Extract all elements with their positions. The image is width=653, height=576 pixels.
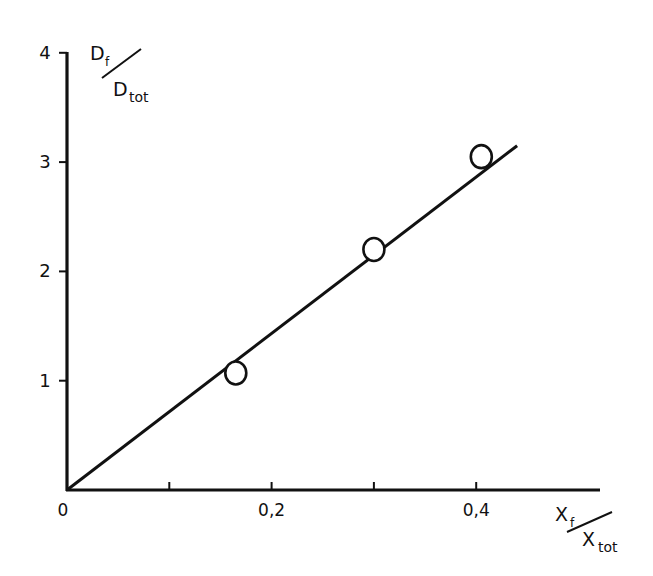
y-label-denominator: D bbox=[113, 78, 128, 100]
y-axis-label: DfDtot bbox=[90, 42, 149, 105]
x-tick-label: 0,4 bbox=[463, 500, 490, 520]
x-tick-label: 0 bbox=[58, 500, 69, 520]
y-label-numerator-sub: f bbox=[105, 55, 110, 69]
x-label-denominator: X bbox=[582, 528, 595, 550]
axes bbox=[66, 52, 600, 491]
x-label-denominator-sub: tot bbox=[598, 539, 618, 555]
data-point-circle bbox=[471, 145, 492, 168]
x-tick-label: 0,2 bbox=[258, 500, 285, 520]
y-label-numerator: D bbox=[90, 42, 105, 64]
x-label-numerator: X bbox=[555, 503, 568, 525]
y-tick-label: 3 bbox=[39, 151, 50, 172]
fit-line bbox=[67, 146, 517, 490]
tick-labels: 00,20,41234 bbox=[39, 42, 489, 520]
line-chart: 00,20,41234 DfDtot XfXtot bbox=[0, 0, 653, 576]
data-point-circle bbox=[225, 362, 246, 385]
y-tick-label: 1 bbox=[39, 370, 50, 391]
y-tick-label: 2 bbox=[39, 260, 50, 281]
data-points bbox=[225, 145, 492, 384]
y-label-denominator-sub: tot bbox=[129, 89, 149, 105]
x-axis-label: XfXtot bbox=[555, 503, 618, 555]
ticks bbox=[59, 53, 476, 490]
fit-line-path bbox=[67, 146, 517, 490]
y-tick-label: 4 bbox=[39, 42, 50, 63]
data-point-circle bbox=[363, 238, 384, 261]
